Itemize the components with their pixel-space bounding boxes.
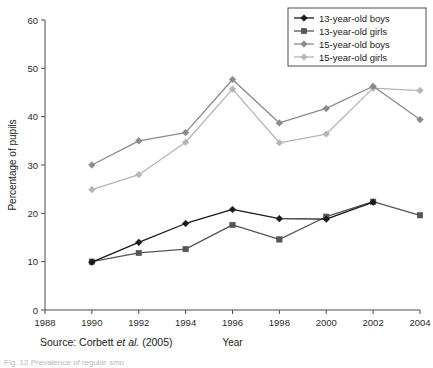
y-tick-label: 50 [27, 63, 38, 74]
series-0 [89, 199, 377, 266]
x-tick-label: 2000 [316, 317, 337, 328]
data-point [182, 220, 189, 227]
series-line [92, 79, 420, 165]
x-tick-label: 1998 [269, 317, 290, 328]
x-tick-label: 2002 [363, 317, 384, 328]
data-point [277, 237, 282, 242]
x-axis-title: Year [222, 337, 243, 348]
data-point [229, 206, 236, 213]
figure-caption-text: Fig. 12 Prevalence of regular smoking [4, 358, 124, 368]
chart-container: 0102030405060198819901992199419961998200… [0, 0, 433, 368]
legend-marker [301, 28, 306, 33]
data-point [230, 222, 235, 227]
data-point [276, 215, 283, 222]
legend: 13-year-old boys13-year-old girls15-year… [288, 8, 426, 66]
y-tick-label: 60 [27, 15, 38, 26]
legend-label: 15-year-old girls [319, 52, 387, 63]
plot-area: 0102030405060198819901992199419961998200… [7, 8, 431, 348]
y-tick-label: 10 [27, 256, 38, 267]
data-point [135, 138, 142, 145]
y-tick-label: 40 [27, 111, 38, 122]
source-italic: et al. [116, 336, 139, 348]
legend-label: 13-year-old boys [319, 13, 390, 24]
y-tick-label: 20 [27, 208, 38, 219]
y-axis-title: Percentage of pupils [7, 119, 18, 210]
series-1 [89, 199, 423, 264]
data-point [135, 239, 142, 246]
legend-label: 13-year-old girls [319, 26, 387, 37]
data-point [323, 105, 330, 112]
x-tick-label: 1994 [175, 317, 196, 328]
y-tick-label: 0 [33, 305, 38, 316]
source-suffix: (2005) [139, 336, 172, 348]
data-point [183, 246, 188, 251]
legend-label: 15-year-old boys [319, 39, 390, 50]
x-tick-label: 1996 [222, 317, 243, 328]
line-chart: 0102030405060198819901992199419961998200… [0, 0, 433, 368]
x-tick-label: 2004 [409, 317, 430, 328]
data-point [417, 213, 422, 218]
data-point [417, 87, 424, 94]
x-tick-label: 1990 [81, 317, 102, 328]
data-point [89, 162, 96, 169]
x-tick-label: 1992 [128, 317, 149, 328]
data-point [136, 250, 141, 255]
source-note: Source: Corbett et al. (2005) [40, 336, 173, 348]
x-tick-label: 1988 [34, 317, 55, 328]
figure-caption-clipped: Fig. 12 Prevalence of regular smoking [4, 358, 124, 368]
source-prefix: Source: Corbett [40, 336, 116, 348]
data-point [89, 186, 96, 193]
y-tick-label: 30 [27, 160, 38, 171]
